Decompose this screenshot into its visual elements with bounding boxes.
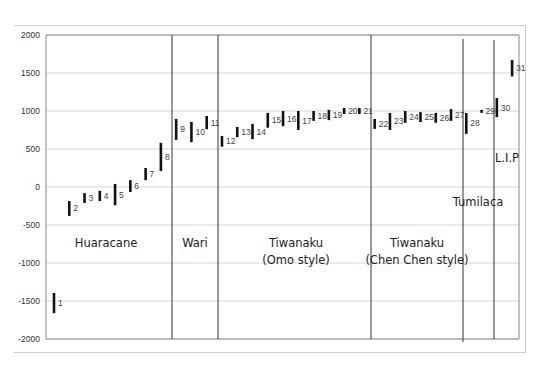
bar-label: 29 (486, 106, 496, 116)
range-bar (465, 113, 468, 134)
y-tick-label: 1500 (21, 68, 40, 78)
y-tick-label: 500 (26, 144, 40, 154)
y-axis: 2000150010005000-500-1000-1500-2000 (18, 30, 40, 344)
range-bar (496, 98, 499, 117)
range-bar (53, 293, 56, 313)
period-label-tiwanaku-omo-line1: Tiwanaku (268, 236, 323, 250)
bar-label: 5 (119, 190, 124, 200)
range-bar (419, 112, 422, 122)
range-bar (404, 111, 407, 123)
range-bar (328, 110, 331, 120)
y-tick-label: -500 (23, 220, 40, 230)
range-bar (129, 180, 132, 192)
bar-label: 6 (134, 181, 139, 191)
bar-label: 27 (455, 110, 465, 120)
bar-label: 22 (379, 119, 389, 129)
bar-label: 7 (150, 169, 155, 179)
bar-label: 16 (287, 114, 297, 124)
range-bar (251, 124, 254, 139)
range-bar (83, 193, 86, 203)
bar-label: 26 (440, 113, 450, 123)
bar-label: 15 (272, 115, 282, 125)
bar-label: 3 (89, 193, 94, 203)
period-label-huaracane: Huaracane (75, 236, 138, 250)
bar-label: 31 (516, 63, 526, 73)
bar-label: 20 (348, 106, 358, 116)
range-bar (68, 201, 71, 216)
range-bar (450, 109, 453, 121)
period-label-tumilaca: Tumilaca (452, 195, 504, 209)
y-tick-label: -1000 (18, 258, 40, 268)
bar-label: 25 (424, 112, 434, 122)
bar-label: 4 (104, 191, 109, 201)
bar-label: 18 (318, 111, 328, 121)
bar-label: 24 (409, 112, 419, 122)
range-bar (358, 108, 361, 114)
bar-label: 28 (470, 118, 480, 128)
range-bar (236, 127, 239, 137)
bar-label: 19 (333, 110, 343, 120)
range-bar (144, 168, 147, 180)
bar-label: 23 (394, 116, 404, 126)
period-label-tiwanaku-chenchen-line2: (Chen Chen style) (365, 253, 468, 267)
range-bar (297, 111, 300, 130)
y-tick-label: -2000 (18, 334, 40, 344)
period-label-tiwanaku-chenchen-line1: Tiwanaku (389, 236, 444, 250)
range-bar (175, 119, 178, 140)
range-bar (99, 191, 102, 201)
range-bar (160, 143, 163, 171)
bar-label: 10 (195, 127, 205, 137)
period-label-wari: Wari (182, 236, 208, 250)
y-tick-label: 1000 (21, 106, 40, 116)
range-bar (343, 108, 346, 114)
range-bar (511, 60, 514, 76)
range-bar (389, 113, 392, 130)
bar-label: 2 (73, 203, 78, 213)
period-label-tiwanaku-omo-line2: (Omo style) (262, 253, 330, 267)
period-labels: Huaracane Wari Tiwanaku (Omo style) Tiwa… (75, 151, 519, 267)
gridlines (46, 35, 519, 339)
period-label-lip: L.I.P (495, 151, 519, 165)
range-bar (205, 116, 208, 129)
bar-label: 13 (241, 127, 251, 137)
bar-label: 21 (363, 106, 373, 116)
y-tick-label: -1500 (18, 296, 40, 306)
range-bar (114, 184, 117, 205)
bar-label: 12 (226, 136, 236, 146)
y-tick-label: 0 (35, 182, 40, 192)
bar-label: 30 (501, 103, 511, 113)
range-bar (190, 122, 193, 142)
bar-label: 1 (58, 298, 63, 308)
range-bar (266, 113, 269, 128)
bar-label: 8 (165, 152, 170, 162)
bar-label: 17 (302, 116, 312, 126)
range-bar (282, 111, 285, 126)
range-bar (480, 110, 483, 113)
range-bar (373, 119, 376, 129)
bar-label: 14 (257, 127, 267, 137)
y-tick-label: 2000 (21, 30, 40, 40)
range-bar (221, 136, 224, 147)
range-bar (312, 111, 315, 121)
bar-label: 9 (180, 124, 185, 134)
bar-label: 11 (211, 118, 220, 128)
range-chart: 2000150010005000-500-1000-1500-2000 1234… (0, 0, 538, 366)
range-bar (434, 113, 437, 123)
period-dividers (172, 35, 494, 342)
